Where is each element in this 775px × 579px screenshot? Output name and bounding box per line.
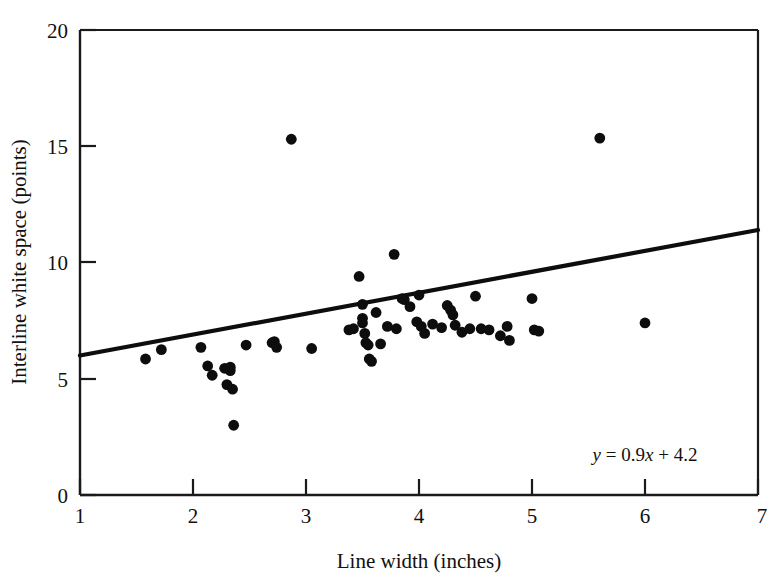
data-point: [241, 340, 252, 351]
data-point: [306, 343, 317, 354]
y-tick-label-15: 15: [47, 135, 68, 159]
data-point: [533, 326, 544, 337]
plot-canvas: 20 15 10 5 0 1 2 3 4 5 6 7 Line width (i…: [0, 0, 775, 579]
data-point: [196, 342, 207, 353]
data-point: [419, 328, 430, 339]
data-point: [357, 318, 368, 329]
x-axis-title: Line width (inches): [337, 549, 501, 573]
scatter-plot-figure: 20 15 10 5 0 1 2 3 4 5 6 7 Line width (i…: [0, 0, 775, 579]
plot-background: [0, 0, 775, 579]
x-tick-label-1: 1: [75, 504, 86, 528]
data-point: [348, 323, 359, 334]
data-point: [504, 335, 515, 346]
data-point: [363, 340, 374, 351]
x-tick-label-7: 7: [757, 504, 768, 528]
data-point: [527, 293, 538, 304]
equation-operator: = 0.9: [601, 444, 645, 465]
data-point: [354, 271, 365, 282]
data-point: [502, 321, 513, 332]
data-point: [228, 420, 239, 431]
data-point: [436, 322, 447, 333]
x-tick-label-2: 2: [188, 504, 199, 528]
data-point: [227, 384, 238, 395]
data-point: [156, 344, 167, 355]
x-tick-label-4: 4: [414, 504, 425, 528]
data-point: [414, 290, 425, 301]
y-axis-title: Interline white space (points): [7, 139, 31, 385]
y-tick-label-0: 0: [58, 484, 69, 508]
data-point: [140, 354, 151, 365]
data-point: [225, 362, 236, 373]
y-tick-label-5: 5: [58, 368, 69, 392]
equation-lhs-var: y: [591, 444, 602, 465]
data-point: [359, 328, 370, 339]
data-point: [371, 307, 382, 318]
x-tick-label-3: 3: [301, 504, 312, 528]
data-point: [389, 249, 400, 260]
equation-intercept: + 4.2: [653, 444, 697, 465]
data-point: [464, 323, 475, 334]
data-point: [470, 291, 481, 302]
data-point: [357, 299, 368, 310]
data-point: [375, 338, 386, 349]
regression-equation-label: y = 0.9x + 4.2: [591, 444, 698, 465]
data-point: [286, 134, 297, 145]
data-point: [366, 356, 377, 367]
x-tick-label-6: 6: [640, 504, 651, 528]
data-point: [594, 133, 605, 144]
data-point: [640, 318, 651, 329]
y-tick-label-10: 10: [47, 251, 68, 275]
data-point: [448, 309, 459, 320]
data-point: [391, 323, 402, 334]
data-point: [202, 361, 213, 372]
data-point: [484, 325, 495, 336]
data-point: [405, 301, 416, 312]
y-tick-label-20: 20: [47, 19, 68, 43]
x-tick-label-5: 5: [527, 504, 538, 528]
data-point: [271, 342, 282, 353]
data-point: [207, 370, 218, 381]
data-point: [382, 321, 393, 332]
